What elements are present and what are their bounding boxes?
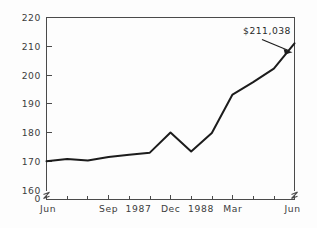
x-tick-label-dec: Dec (161, 203, 181, 214)
x-axis-ticks (47, 195, 295, 200)
annotation-arrow-line (262, 40, 289, 51)
x-tick-label-year-1987: 1987 (126, 203, 152, 214)
plot-frame (46, 18, 295, 200)
y-tick-label-220: 220 (22, 12, 41, 23)
y-tick-label-zero: 0 (35, 193, 41, 204)
y-tick-label-180: 180 (22, 127, 41, 138)
y-tick-label-190: 190 (22, 98, 41, 109)
chart-canvas: 220 210 200 190 180 170 160 0 (0, 0, 317, 228)
x-tick-label-mar: Mar (223, 203, 242, 214)
data-series-line (47, 43, 295, 161)
value-annotation: $211,038 (243, 25, 292, 55)
y-tick-label-170: 170 (22, 156, 41, 167)
x-tick-label-jun-1987: Jun (39, 203, 56, 214)
data-series-group (47, 43, 295, 161)
annotation-label: $211,038 (243, 25, 291, 36)
y-tick-label-210: 210 (22, 41, 41, 52)
x-tick-label-jun-1988: Jun (283, 203, 300, 214)
y-tick-label-200: 200 (22, 70, 41, 81)
x-tick-label-year-1988: 1988 (188, 203, 214, 214)
x-tick-label-sep: Sep (99, 203, 118, 214)
line-chart: 220 210 200 190 180 170 160 0 (0, 0, 317, 228)
x-axis-labels: Jun Sep 1987 Dec 1988 Mar Jun (39, 203, 301, 214)
